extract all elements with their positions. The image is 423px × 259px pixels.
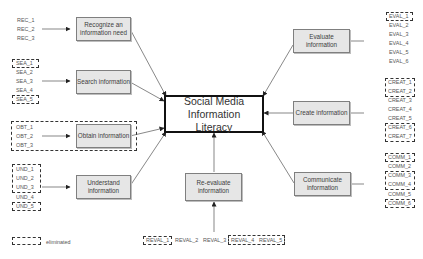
code-sea-4: SEA_4 <box>16 87 33 94</box>
code-und-5: UND_5 <box>16 203 34 210</box>
node-label: Evaluate information <box>294 33 349 49</box>
code-eval-2: EVAL_2 <box>389 22 408 29</box>
node-reevaluate: Re-evaluate information <box>185 173 242 201</box>
code-und-1: UND_1 <box>16 166 34 173</box>
code-rec-2: REC_2 <box>17 26 34 33</box>
node-label: Understand information <box>77 179 130 195</box>
code-comm-6: COMM_6 <box>388 200 411 207</box>
code-creat-4: CREAT_4 <box>388 106 412 113</box>
code-comm-4: COMM_4 <box>388 181 411 188</box>
node-understand: Understand information <box>76 175 131 199</box>
code-reval-3: REVAL_3 <box>203 237 226 244</box>
code-reval-1: REVAL_1 <box>146 237 169 244</box>
code-sea-2: SEA_2 <box>16 69 33 76</box>
node-search: Search information <box>76 70 131 94</box>
code-obt-1: OBT_1 <box>16 124 33 131</box>
node-label: Search information <box>77 78 130 86</box>
code-creat-2: CREAT_2 <box>388 88 412 95</box>
code-creat-3: CREAT_3 <box>388 97 412 104</box>
code-creat-1: CREAT_1 <box>388 79 412 86</box>
legend-eliminated-swatch <box>12 237 41 245</box>
code-eval-4: EVAL_4 <box>389 40 408 47</box>
node-evaluate: Evaluate information <box>293 29 350 53</box>
code-sea-5: SEA_5 <box>16 96 33 103</box>
code-comm-2: COMM_2 <box>388 163 411 170</box>
code-eval-3: EVAL_3 <box>389 31 408 38</box>
code-creat-5: CREAT_5 <box>388 115 412 122</box>
code-comm-1: COMM_1 <box>388 154 411 161</box>
code-eval-6: EVAL_6 <box>389 58 408 65</box>
code-eval-1: EVAL_1 <box>389 13 408 20</box>
code-creat-6: CREAT_6 <box>388 124 412 131</box>
code-und-4: UND_4 <box>16 194 34 201</box>
code-und-2: UND_2 <box>16 175 34 182</box>
code-obt-3: OBT_3 <box>16 142 33 149</box>
code-rec-1: REC_1 <box>17 17 34 24</box>
center-node-social-media-information-literacy: Social Media Information Literacy <box>164 95 264 133</box>
code-creat-7: CREAT_7 <box>388 133 412 140</box>
code-und-3: UND_3 <box>16 184 34 191</box>
code-comm-5: COMM_5 <box>388 191 411 198</box>
node-create: Create information <box>293 101 350 125</box>
code-obt-2: OBT_2 <box>16 133 33 140</box>
code-comm-3: COMM_3 <box>388 172 411 179</box>
node-label: Create information <box>296 109 348 117</box>
code-eval-5: EVAL_5 <box>389 49 408 56</box>
node-recognize: Recognize an information need <box>76 17 131 41</box>
node-label: Recognize an information need <box>77 21 130 37</box>
center-title: Social Media Information Literacy <box>172 95 256 134</box>
code-reval-2: REVAL_2 <box>175 237 198 244</box>
code-sea-1: SEA_1 <box>16 60 33 67</box>
node-label: Re-evaluate information <box>186 179 241 195</box>
code-reval-4: REVAL_4 <box>231 237 254 244</box>
code-sea-3: SEA_3 <box>16 78 33 85</box>
diagram-canvas: Social Media Information Literacy Recogn… <box>0 0 423 259</box>
node-label: Communicate information <box>295 176 350 192</box>
node-communicate: Communicate information <box>294 172 351 196</box>
legend-eliminated-label: eliminated <box>46 239 71 245</box>
code-rec-3: REC_3 <box>17 35 34 42</box>
code-reval-5: REVAL_5 <box>259 237 282 244</box>
